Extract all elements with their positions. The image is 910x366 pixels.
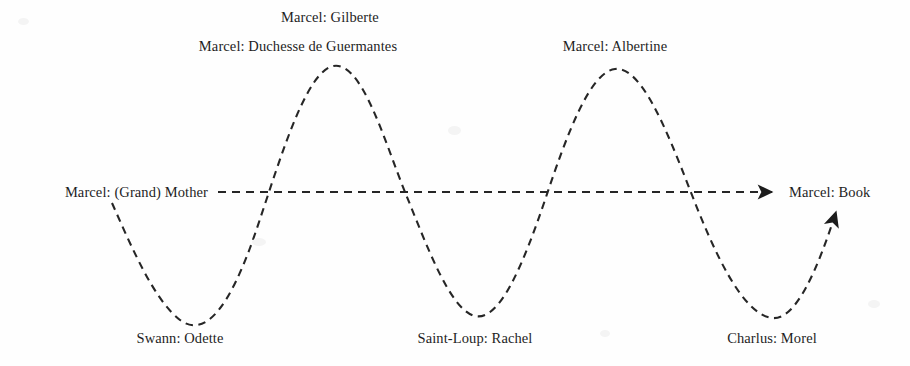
sine-wave-diagram bbox=[0, 0, 910, 366]
label-peak2-marcel-albertine: Marcel: Albertine bbox=[563, 39, 667, 54]
sine-curve-path bbox=[112, 66, 836, 326]
label-peak1-marcel-duchesse-de-guermantes: Marcel: Duchesse de Guermantes bbox=[199, 39, 397, 54]
label-trough3-charlus-morel: Charlus: Morel bbox=[727, 331, 817, 346]
label-trough2-saint-loup-rachel: Saint-Loup: Rachel bbox=[418, 331, 533, 346]
label-trough1-swann-odette: Swann: Odette bbox=[136, 331, 223, 346]
label-start-marcel-grandmother: Marcel: (Grand) Mother bbox=[65, 185, 208, 200]
diagram-canvas: Marcel: (Grand) Mother Marcel: Gilberte … bbox=[0, 0, 910, 366]
label-peak1-marcel-gilberte: Marcel: Gilberte bbox=[281, 10, 379, 25]
label-end-marcel-book: Marcel: Book bbox=[789, 185, 870, 200]
